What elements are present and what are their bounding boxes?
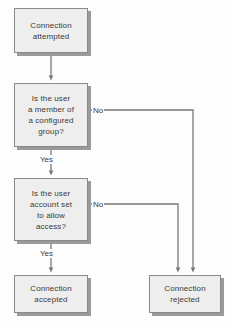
node-connection-attempted-label: Connection attempted (28, 20, 73, 42)
edge-label-group-yes: Yes (39, 155, 54, 164)
edge-label-account-yes: Yes (39, 249, 54, 258)
edge-label-group-no: No (92, 106, 104, 115)
node-member-of-group-label: Is the user a member of a configured gro… (26, 93, 76, 137)
node-member-of-group[interactable]: Is the user a member of a configured gro… (14, 83, 88, 147)
connector-group-no-to-rejected (88, 110, 193, 270)
node-connection-accepted[interactable]: Connection accepted (14, 275, 88, 313)
node-account-allow-access[interactable]: Is the user account set to allow access? (14, 178, 88, 241)
node-connection-attempted[interactable]: Connection attempted (14, 8, 88, 53)
edge-label-account-no: No (92, 200, 104, 209)
flowchart-diagram: Connection attempted Is the user a membe… (0, 0, 232, 328)
node-account-allow-access-label: Is the user account set to allow access? (28, 188, 74, 232)
connector-account-no-to-rejected (88, 204, 178, 270)
node-connection-rejected[interactable]: Connection rejected (149, 275, 221, 313)
node-connection-rejected-label: Connection rejected (162, 283, 207, 305)
node-connection-accepted-label: Connection accepted (28, 283, 73, 305)
